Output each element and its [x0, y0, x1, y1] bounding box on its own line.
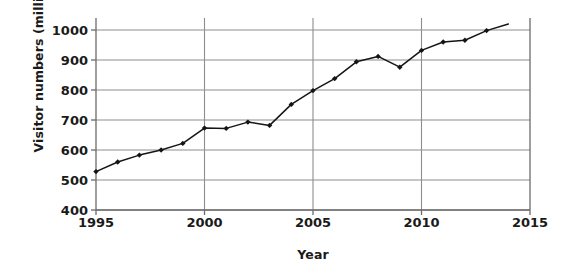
data-point-1995	[93, 169, 98, 174]
data-point-2013	[484, 28, 489, 33]
x-tick-label-2010: 2010	[382, 216, 462, 229]
x-tick-label-2005: 2005	[273, 216, 353, 229]
data-point-2008	[375, 54, 380, 59]
data-point-1998	[158, 147, 163, 152]
data-point-1997	[137, 152, 142, 157]
plot-area	[0, 0, 563, 276]
data-point-2012	[462, 38, 467, 43]
axis-tickmarks	[91, 30, 530, 215]
visitor-numbers-line-chart: 4005006007008009001000 Visitor numbers (…	[0, 0, 563, 276]
data-point-2001	[224, 126, 229, 131]
data-point-1996	[115, 159, 120, 164]
vertical-gridlines	[205, 18, 422, 210]
x-tick-label-2000: 2000	[165, 216, 245, 229]
x-tick-label-2015: 2015	[490, 216, 563, 229]
data-point-2011	[441, 39, 446, 44]
x-tick-label-1995: 1995	[56, 216, 136, 229]
